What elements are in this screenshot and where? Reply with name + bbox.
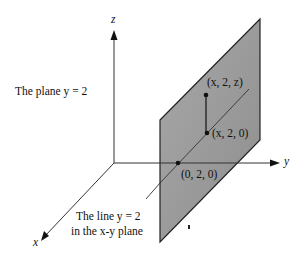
y-axis-arrow-icon	[270, 160, 280, 167]
line-y2-outside	[146, 183, 160, 199]
point-label-020: (0, 2, 0)	[181, 168, 217, 181]
y-axis-label: y	[284, 155, 289, 168]
z-axis-arrow-icon	[111, 30, 118, 40]
diagram-svg	[0, 0, 303, 258]
diagram-canvas: z y x The plane y = 2 The line y = 2 in …	[0, 0, 303, 258]
line-label-1: The line y = 2	[76, 210, 141, 223]
point-x20	[205, 131, 210, 136]
speck	[188, 225, 190, 229]
z-axis-label: z	[111, 13, 115, 26]
x-axis-label: x	[33, 236, 38, 249]
point-label-x20: (x, 2, 0)	[212, 127, 248, 140]
point-label-x2z: (x, 2, z)	[207, 76, 243, 89]
point-x2z	[204, 93, 209, 98]
point-020	[176, 161, 181, 166]
line-label-2: in the x-y plane	[71, 225, 143, 238]
plane-label: The plane y = 2	[15, 85, 87, 98]
